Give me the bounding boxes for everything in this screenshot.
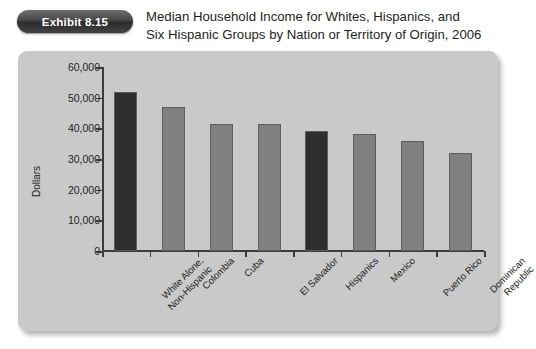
y-axis-tick-label: 20,000	[48, 184, 100, 196]
chart-panel: Dollars 60,00050,00040,00030,00020,00010…	[18, 51, 498, 331]
page-title: Median Household Income for Whites, Hisp…	[146, 8, 496, 44]
x-axis-category-labels: White Alone,Non-HispanicColombiaCubaEl S…	[102, 255, 502, 331]
x-axis-category-label-line: Hispanics	[343, 255, 381, 293]
x-axis-tick-mark	[198, 251, 200, 257]
y-axis-tick-label: 50,000	[48, 92, 100, 104]
x-axis-category-label: Mexico	[388, 255, 418, 285]
bar	[305, 131, 328, 251]
bar	[210, 124, 233, 251]
y-axis-tick-label: 60,000	[48, 61, 100, 73]
x-axis-category-label: Puerto Rico	[441, 255, 485, 299]
x-axis-category-label-line: Cuba	[242, 255, 266, 279]
y-axis-tick-mark	[96, 98, 102, 100]
x-axis-category-label: Hispanics	[343, 255, 381, 293]
x-axis-category-label: Cuba	[242, 255, 266, 279]
y-axis-tick-mark	[96, 220, 102, 222]
y-axis-tick-label: 40,000	[48, 122, 100, 134]
x-axis-category-label: El Salvador	[297, 255, 340, 298]
y-axis-tick-label: 30,000	[48, 153, 100, 165]
x-axis-tick-mark	[245, 251, 247, 257]
x-axis-tick-mark	[102, 251, 104, 257]
x-axis-category-label-line: Puerto Rico	[441, 255, 485, 299]
plot-area: Dollars 60,00050,00040,00030,00020,00010…	[18, 51, 498, 331]
page-title-line-2: Six Hispanic Groups by Nation or Territo…	[146, 26, 496, 44]
bar	[401, 141, 424, 251]
x-axis-tick-mark	[389, 251, 391, 257]
y-axis-title: Dollars	[31, 142, 42, 222]
exhibit-badge-label: Exhibit 8.15	[42, 16, 108, 28]
page-title-line-1: Median Household Income for Whites, Hisp…	[146, 8, 496, 26]
x-axis-tick-mark	[484, 251, 486, 257]
y-axis-tick-mark	[96, 159, 102, 161]
y-axis-tick-label: 0	[48, 245, 100, 257]
bar	[258, 124, 281, 251]
y-axis-tick-mark	[96, 190, 102, 192]
x-axis-tick-mark	[341, 251, 343, 257]
bar	[162, 107, 185, 251]
bar	[114, 92, 137, 251]
exhibit-badge: Exhibit 8.15	[17, 10, 133, 33]
y-axis-tick-label: 10,000	[48, 214, 100, 226]
x-axis-category-label: DominicanRepublic	[487, 255, 535, 303]
x-axis-tick-mark	[436, 251, 438, 257]
y-axis-tick-labels: 60,00050,00040,00030,00020,00010,0000	[42, 51, 100, 331]
bars-layer	[102, 67, 484, 251]
y-axis-tick-mark	[96, 67, 102, 69]
y-axis-tick-mark	[96, 128, 102, 130]
bar	[449, 153, 472, 251]
x-axis-category-label-line: El Salvador	[297, 255, 340, 298]
x-axis-tick-mark	[150, 251, 152, 257]
exhibit-header: Exhibit 8.15 Median Household Income for…	[0, 0, 510, 52]
x-axis-category-label-line: Mexico	[388, 255, 418, 285]
x-axis-tick-mark	[293, 251, 295, 257]
bar	[353, 134, 376, 251]
